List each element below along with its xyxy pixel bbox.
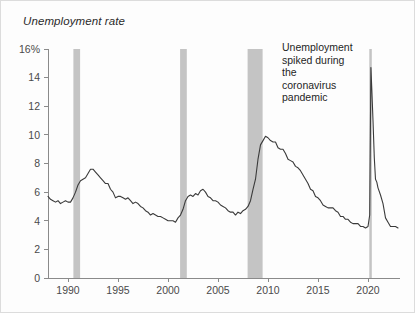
x-tick-label-3: 2005	[206, 284, 230, 296]
covid-annotation-line-3: coronavirus	[282, 79, 378, 92]
covid-annotation-line-4: pandemic	[282, 91, 378, 104]
y-tick-label-3: 6	[34, 186, 40, 198]
recession-band-0	[73, 49, 80, 278]
covid-annotation-line-0: Unemployment	[282, 41, 378, 54]
x-tick-label-4: 2010	[256, 284, 280, 296]
x-axis-ticks: 1990199520002005201020152020	[56, 278, 380, 296]
y-tick-label-2: 4	[34, 215, 40, 227]
y-tick-label-1: 2	[34, 243, 40, 255]
recession-band-2	[248, 49, 263, 278]
y-tick-label-8: 16%	[19, 43, 40, 55]
chart-figure: Unemployment rate 0246810121416% 1990199…	[0, 0, 415, 313]
x-tick-label-5: 2015	[306, 284, 330, 296]
recession-band-1	[180, 49, 187, 278]
covid-annotation-line-2: the	[282, 66, 378, 79]
x-tick-label-1: 1995	[106, 284, 130, 296]
covid-annotation: Unemploymentspiked duringthecoronavirusp…	[282, 41, 378, 104]
y-tick-label-0: 0	[34, 272, 40, 284]
x-tick-label-2: 2000	[156, 284, 180, 296]
y-tick-label-7: 14	[28, 71, 40, 83]
y-tick-label-6: 12	[28, 100, 40, 112]
y-tick-label-4: 8	[34, 157, 40, 169]
x-tick-label-6: 2020	[356, 284, 380, 296]
x-tick-label-0: 1990	[56, 284, 80, 296]
y-axis-ticks: 0246810121416%	[19, 43, 48, 284]
covid-annotation-line-1: spiked during	[282, 54, 378, 67]
y-tick-label-5: 10	[28, 129, 40, 141]
